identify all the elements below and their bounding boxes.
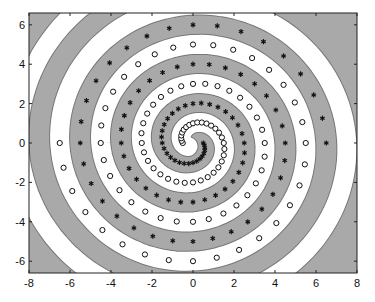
circle-point: [302, 162, 307, 167]
circle-point: [274, 220, 279, 225]
circle-point: [122, 74, 127, 79]
circle-point: [259, 168, 264, 173]
circle-point: [70, 188, 75, 193]
circle-point: [168, 88, 173, 93]
circle-point: [139, 140, 144, 145]
circle-point: [303, 140, 308, 145]
circle-point: [211, 170, 216, 175]
circle-point: [57, 140, 62, 145]
circle-point: [219, 159, 224, 164]
circle-point: [221, 211, 226, 216]
circle-point: [262, 154, 267, 159]
circle-point: [254, 115, 259, 120]
circle-point: [203, 81, 208, 86]
circle-point: [214, 255, 219, 260]
circle-point: [292, 100, 297, 105]
circle-point: [219, 135, 224, 140]
circle-point: [182, 180, 187, 185]
circle-point: [166, 258, 171, 263]
circle-point: [238, 95, 243, 100]
circle-point: [174, 219, 179, 224]
circle-point: [257, 236, 262, 241]
x-tick-label: -6: [65, 277, 75, 289]
x-tick-label: -4: [106, 277, 116, 289]
circle-point: [190, 81, 195, 86]
circle-point: [260, 127, 265, 132]
circle-point: [139, 131, 144, 136]
circle-point: [83, 209, 88, 214]
circle-point: [236, 247, 241, 252]
x-tick-label: -8: [24, 277, 34, 289]
circle-point: [108, 173, 113, 178]
circle-point: [99, 123, 104, 128]
circle-point: [145, 111, 150, 116]
circle-point: [267, 67, 272, 72]
circle-point: [222, 146, 227, 151]
decision-regions: [19, 0, 357, 301]
x-tick-label: 2: [231, 277, 237, 289]
y-tick-label: 6: [19, 19, 25, 31]
y-tick-label: 0: [19, 137, 25, 149]
circle-point: [158, 94, 163, 99]
circle-point: [221, 140, 226, 145]
x-tick-label: -2: [147, 277, 157, 289]
circle-point: [103, 106, 108, 111]
circle-point: [101, 157, 106, 162]
y-tick-label: -2: [15, 176, 25, 188]
circle-point: [253, 181, 258, 186]
circle-point: [205, 175, 210, 180]
x-tick-label: 8: [354, 277, 360, 289]
x-tick-label: 0: [190, 277, 196, 289]
circle-point: [165, 176, 170, 181]
circle-point: [190, 219, 195, 224]
circle-point: [281, 82, 286, 87]
y-tick-label: 4: [19, 58, 25, 70]
circle-point: [174, 179, 179, 184]
circle-point: [211, 43, 216, 48]
circle-point: [231, 47, 236, 52]
x-tick-label: 4: [272, 277, 278, 289]
circle-point: [262, 140, 267, 145]
circle-point: [234, 203, 239, 208]
circle-point: [206, 216, 211, 221]
circle-point: [141, 150, 146, 155]
x-tick-label: 6: [313, 277, 319, 289]
circle-point: [287, 203, 292, 208]
y-tick-label: -6: [15, 255, 25, 267]
circle-point: [98, 140, 103, 145]
circle-point: [152, 52, 157, 57]
circle-point: [120, 242, 125, 247]
circle-point: [129, 200, 134, 205]
circle-point: [216, 130, 221, 135]
circle-point: [141, 121, 146, 126]
circle-point: [145, 158, 150, 163]
circle-point: [190, 180, 195, 185]
circle-point: [190, 259, 195, 264]
circle-point: [249, 55, 254, 60]
circle-point: [111, 89, 116, 94]
circle-point: [158, 172, 163, 177]
circle-point: [158, 215, 163, 220]
circle-point: [142, 252, 147, 257]
spiral-scatter-chart: -8-6-4-202468 -6-4-20246: [0, 0, 375, 302]
circle-point: [198, 178, 203, 183]
circle-point: [300, 120, 305, 125]
y-tick-label: -4: [15, 216, 25, 228]
circle-point: [190, 42, 195, 47]
circle-point: [171, 45, 176, 50]
circle-point: [151, 102, 156, 107]
circle-point: [61, 165, 66, 170]
circle-point: [215, 84, 220, 89]
circle-point: [143, 209, 148, 214]
circle-point: [100, 227, 105, 232]
y-tick-label: 2: [19, 98, 25, 110]
circle-point: [247, 104, 252, 109]
circle-point: [221, 153, 226, 158]
circle-point: [179, 84, 184, 89]
circle-point: [245, 193, 250, 198]
circle-point: [117, 188, 122, 193]
circle-point: [136, 62, 141, 67]
circle-point: [227, 88, 232, 93]
circle-point: [297, 183, 302, 188]
circle-point: [151, 166, 156, 171]
